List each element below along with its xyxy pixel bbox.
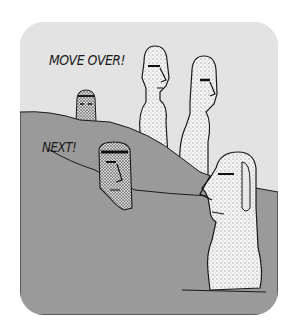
small-moai-head-on-ridge [76, 90, 96, 122]
caption-move-over: MOVE OVER! [49, 51, 125, 68]
caption-next: NEXT! [42, 139, 76, 155]
cartoon-panel: MOVE OVER! NEXT! [20, 22, 278, 315]
